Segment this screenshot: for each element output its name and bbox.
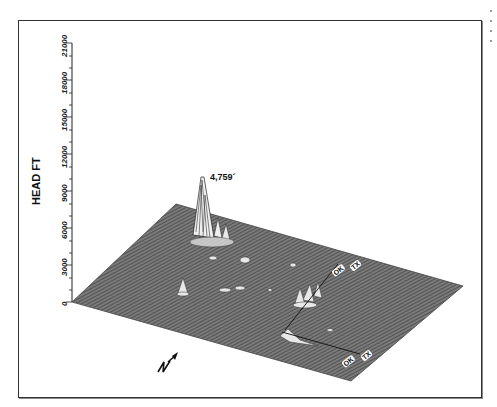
terrain-surface bbox=[72, 204, 463, 381]
y-tick: 3000 bbox=[60, 258, 69, 276]
y-tick: 15000 bbox=[60, 109, 69, 131]
peak-annotation: 4,759´ bbox=[210, 172, 236, 182]
surface-plot bbox=[0, 0, 497, 407]
y-tick: 18000 bbox=[60, 72, 69, 94]
y-tick: 0 bbox=[60, 302, 69, 306]
y-tick: 12000 bbox=[60, 146, 69, 168]
y-axis-label: HEAD FT bbox=[30, 157, 42, 205]
y-tick: 21000 bbox=[60, 35, 69, 57]
y-tick: 9000 bbox=[60, 184, 69, 202]
y-tick: 6000 bbox=[60, 221, 69, 239]
north-arrow-icon bbox=[158, 352, 178, 372]
edge-marks bbox=[490, 10, 493, 70]
